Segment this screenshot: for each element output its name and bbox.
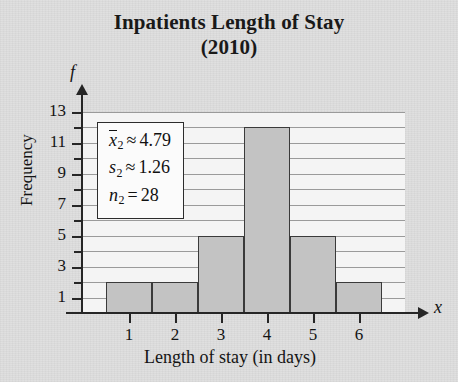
stat-mean: x2≈4.79 [109,129,171,156]
y-axis-variable-label: f [70,62,75,83]
y-axis-tick-label: 7 [44,194,66,214]
y-axis-tick-major [72,236,83,238]
y-axis-tick-label: 3 [44,256,66,276]
stat-n: n2=28 [109,184,171,211]
y-axis-tick-major [72,112,83,114]
y-axis-tick-label: 1 [44,287,66,307]
chart-title: Inpatients Length of Stay (2010) [0,10,458,60]
y-axis-tick-minor [74,158,83,160]
y-axis-arrowhead [76,84,88,95]
chart-title-line1: Inpatients Length of Stay [114,10,345,34]
x-axis-tick [175,314,177,323]
x-axis-tick [221,314,223,323]
x-axis-variable-label: x [434,297,442,318]
sd-symbol: s [109,157,116,177]
x-axis-tick-label: 6 [344,325,374,345]
x-axis-arrowhead [418,307,429,319]
mean-value: 4.79 [139,130,171,150]
gridline [83,112,405,113]
y-axis-line [81,92,83,314]
stat-sd: s2≈1.26 [109,156,171,183]
n-operator: = [128,185,138,205]
histogram-bar [290,236,336,313]
x-axis-line [66,312,421,314]
x-axis-tick [313,314,315,323]
y-axis-tick-label: 13 [44,101,66,121]
y-axis-tick-minor [74,220,83,222]
y-axis-tick-major [72,143,83,145]
x-axis-tick [267,314,269,323]
chart-title-line2: (2010) [0,35,458,60]
y-axis-tick-major [72,205,83,207]
x-axis-tick-label: 3 [206,325,236,345]
x-axis-tick [359,314,361,323]
y-axis-tick-minor [74,127,83,129]
histogram-bar [106,282,152,313]
y-axis-tick-major [72,298,83,300]
sd-subscript: 2 [117,166,123,180]
mean-symbol: x [109,130,117,149]
x-axis-tick-label: 5 [298,325,328,345]
y-axis-tick-major [72,174,83,176]
sd-operator: ≈ [126,157,136,177]
statistics-box: x2≈4.79 s2≈1.26 n2=28 [97,122,184,219]
mean-operator: ≈ [127,130,137,150]
n-symbol: n [109,185,118,205]
x-axis-tick [129,314,131,323]
n-subscript: 2 [119,193,125,207]
histogram-bar [198,236,244,313]
y-axis-tick-major [72,267,83,269]
y-axis-tick-minor [74,189,83,191]
histogram-bar [336,282,382,313]
x-axis-tick-label: 1 [114,325,144,345]
x-axis-tick-label: 4 [252,325,282,345]
mean-subscript: 2 [118,138,124,152]
histogram-bar [244,127,290,313]
n-value: 28 [141,185,159,205]
y-axis-title: Frequency [17,115,37,225]
y-axis-tick-minor [74,251,83,253]
sd-value: 1.26 [138,157,170,177]
histogram-bar [152,282,198,313]
y-axis-tick-label: 11 [44,132,66,152]
x-axis-title: Length of stay (in days) [60,347,400,368]
y-axis-tick-label: 5 [44,225,66,245]
x-axis-tick-label: 2 [160,325,190,345]
y-axis-tick-minor [74,282,83,284]
y-axis-tick-label: 9 [44,163,66,183]
